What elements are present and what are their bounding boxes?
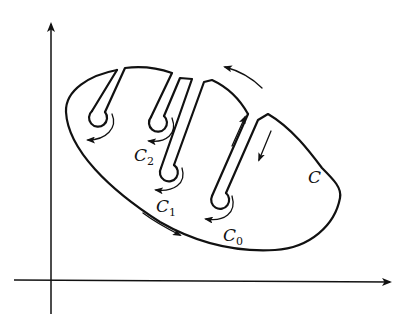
circle-C0 (211, 193, 229, 209)
arrow-top (225, 67, 262, 88)
diagram-svg: C2 C1 C0 C (0, 0, 408, 331)
label-C2: C2 (134, 145, 154, 168)
label-C: C (308, 167, 321, 187)
axes (14, 24, 390, 314)
contour-diagram: C2 C1 C0 C (0, 0, 408, 331)
circle-C1 (160, 165, 178, 181)
label-C1: C1 (156, 196, 176, 219)
circle-C2 (149, 116, 167, 132)
outer-top-right (174, 80, 248, 165)
arrow-slit-down (259, 131, 271, 160)
outer-contour-C (66, 67, 340, 250)
circle-left (89, 111, 107, 127)
x-axis (14, 280, 390, 282)
arrow-slit-up (232, 117, 245, 146)
label-C0: C0 (223, 225, 243, 248)
outer-boundary-left (66, 70, 340, 250)
slit-C1-left (161, 78, 192, 168)
